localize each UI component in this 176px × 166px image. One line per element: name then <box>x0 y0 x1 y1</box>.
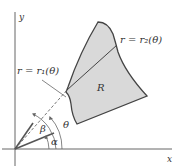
y-axis-label: y <box>18 12 25 22</box>
beta-label: β <box>39 123 46 134</box>
polar-region-diagram: y x R α β θ r = r₁(θ) r = r₂(θ) <box>0 0 176 166</box>
inner-curve-leader <box>42 80 66 97</box>
alpha-label: α <box>51 136 58 147</box>
x-axis-label: x <box>167 154 172 164</box>
inner-curve-label: r = r₁(θ) <box>17 65 59 76</box>
theta-label: θ <box>63 119 69 130</box>
region-label: R <box>96 82 105 93</box>
outer-curve-label: r = r₂(θ) <box>120 34 162 45</box>
